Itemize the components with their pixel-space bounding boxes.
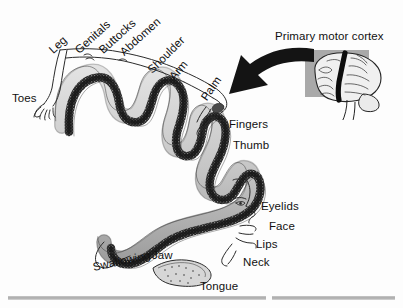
bottom-rule-right — [272, 296, 395, 300]
label-thumb: Thumb — [233, 140, 269, 152]
bottom-rule-left — [8, 296, 266, 300]
primary-motor-cortex-label: Primary motor cortex — [275, 31, 384, 43]
label-tongue: Tongue — [200, 281, 238, 293]
label-toes: Toes — [12, 93, 37, 105]
motor-homunculus-figure: Primary motor cortex ToesLegGenitalsButt… — [0, 0, 403, 308]
label-eyelids: Eyelids — [261, 201, 299, 213]
label-face: Face — [269, 221, 295, 233]
label-neck: Neck — [243, 257, 270, 269]
callout-arrow-icon — [210, 40, 330, 115]
label-lips: Lips — [256, 239, 278, 251]
label-jaw: Jaw — [152, 250, 173, 262]
label-fingers: Fingers — [229, 119, 268, 131]
